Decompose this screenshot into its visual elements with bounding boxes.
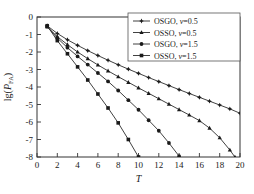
x-tick-label: 20 <box>236 160 246 170</box>
y-tick-label: -6 <box>26 117 34 127</box>
legend-label-value: =0.5 <box>182 29 197 38</box>
legend-label-value: =1.5 <box>182 52 197 61</box>
data-point-star <box>85 48 90 53</box>
y-label-prefix: lg( <box>2 89 14 101</box>
data-point-star <box>156 79 161 84</box>
legend-label-main: OSSO, <box>154 52 178 61</box>
data-point-triangle <box>76 50 80 54</box>
data-point-circle <box>96 71 100 75</box>
data-point-circle <box>86 63 90 67</box>
data-point-star <box>167 83 172 88</box>
data-point-star <box>65 37 70 42</box>
legend-label: OSSO, v=0.5 <box>154 29 197 38</box>
y-tick-label: -2 <box>26 47 34 57</box>
y-axis-title-text: lg(PFA) <box>2 73 14 101</box>
data-point-square <box>137 155 141 159</box>
data-point-circle <box>106 80 110 84</box>
x-tick-label: 4 <box>75 160 80 170</box>
data-point-star <box>207 99 212 104</box>
y-tick-label: 0 <box>29 12 34 22</box>
data-point-square <box>116 121 120 125</box>
data-point-square <box>106 106 110 110</box>
x-tick-label: 16 <box>195 160 205 170</box>
data-point-triangle <box>207 126 211 130</box>
y-tick-label: -3 <box>26 65 34 75</box>
chart-figure: 024681012141618200-1-2-3-4-5-6-7-8Tlg(PF… <box>0 0 254 194</box>
data-point-circle <box>116 89 120 93</box>
x-tick-label: 18 <box>215 160 225 170</box>
data-point-circle <box>147 118 151 122</box>
data-point-star <box>217 103 222 108</box>
legend-label-value: =0.5 <box>183 17 198 26</box>
data-point-square <box>96 92 100 96</box>
series-4 <box>45 24 140 159</box>
line-chart: 024681012141618200-1-2-3-4-5-6-7-8Tlg(PF… <box>0 0 254 194</box>
data-point-star <box>227 106 232 111</box>
y-tick-label: -8 <box>26 152 34 162</box>
data-point-circle <box>157 129 161 133</box>
data-point-star <box>75 43 80 48</box>
data-point-circle <box>167 141 171 145</box>
data-point-star <box>136 71 141 76</box>
data-point-circle <box>66 46 70 50</box>
x-tick-label: 8 <box>116 160 121 170</box>
data-point-triangle <box>86 56 90 60</box>
legend-label-main: OSGO, <box>154 17 180 26</box>
legend-label: OSGO, v=1.5 <box>154 40 198 49</box>
data-point-circle <box>140 42 144 46</box>
y-label-suffix: ) <box>2 73 14 76</box>
data-point-star <box>238 111 243 116</box>
data-point-square <box>45 24 49 28</box>
x-tick-label: 12 <box>154 160 163 170</box>
data-point-square <box>127 138 131 142</box>
legend-label-value: =1.5 <box>183 40 198 49</box>
data-point-circle <box>126 98 130 102</box>
x-tick-label: 2 <box>55 160 60 170</box>
x-tick-label: 6 <box>96 160 101 170</box>
data-point-square <box>66 52 70 56</box>
data-point-star <box>106 58 111 63</box>
y-tick-label: -1 <box>26 30 34 40</box>
legend-label-main: OSSO, <box>154 29 178 38</box>
y-tick-label: -7 <box>26 135 34 145</box>
y-tick-label: -4 <box>26 82 34 92</box>
legend-label-main: OSGO, <box>154 40 180 49</box>
data-point-square <box>86 78 90 82</box>
data-point-square <box>140 54 144 58</box>
legend-label: OSGO, v=0.5 <box>154 17 198 26</box>
y-tick-label: -5 <box>26 100 34 110</box>
y-axis-title: lg(PFA) <box>2 73 14 101</box>
data-point-triangle <box>96 63 100 67</box>
x-tick-label: 0 <box>35 160 40 170</box>
data-point-circle <box>76 54 80 58</box>
data-point-star <box>126 67 131 72</box>
data-point-star <box>177 87 182 92</box>
data-point-star <box>116 62 121 67</box>
x-tick-label: 10 <box>134 160 144 170</box>
data-point-star <box>146 75 151 80</box>
series-line <box>47 26 138 157</box>
x-tick-label: 14 <box>175 160 185 170</box>
data-point-square <box>76 65 80 69</box>
data-point-star <box>187 91 192 96</box>
data-point-circle <box>137 108 141 112</box>
data-point-square <box>56 39 60 43</box>
data-point-star <box>96 53 101 58</box>
y-label-symbol: P <box>2 84 13 91</box>
data-point-star <box>197 95 202 100</box>
legend-label: OSSO, v=1.5 <box>154 52 197 61</box>
x-axis-title: T <box>136 173 143 184</box>
